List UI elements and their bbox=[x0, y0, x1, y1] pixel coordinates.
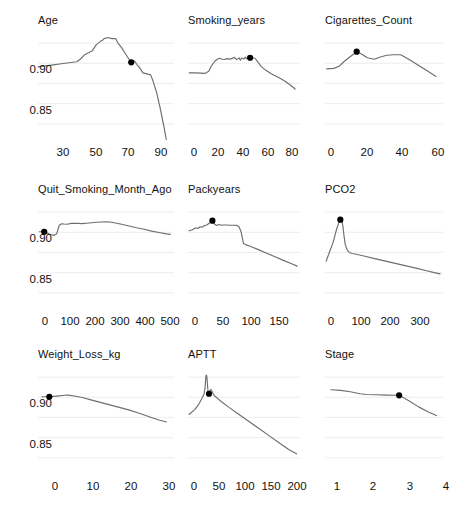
xtick-stage-0: 1 bbox=[334, 480, 340, 492]
xtick-smoking-years-0: 0 bbox=[191, 146, 197, 158]
plot-area-weight-loss-kg bbox=[38, 365, 174, 475]
partial-dependence-curve bbox=[326, 220, 440, 274]
xtick-packyears-3: 150 bbox=[269, 315, 288, 327]
partial-dependence-curve bbox=[189, 221, 297, 266]
selected-point-marker bbox=[354, 49, 360, 55]
xtick-age-2: 70 bbox=[122, 146, 135, 158]
ytick-row2-085: 0.85 bbox=[6, 273, 52, 285]
xtick-stage-3: 4 bbox=[443, 480, 449, 492]
partial-dependence-curve bbox=[189, 375, 297, 454]
panel-title-packyears: Packyears bbox=[188, 183, 240, 195]
plot-area-cigarettes-count bbox=[325, 31, 443, 141]
panel-title-weight-loss-kg: Weight_Loss_kg bbox=[38, 348, 121, 360]
partial-dependence-plot-grid: Age 0.90 0.85 30 50 70 90 Smoking_years … bbox=[0, 0, 474, 518]
plot-svg-packyears bbox=[188, 200, 300, 310]
xtick-aptt-1: 50 bbox=[213, 480, 226, 492]
xtick-quit-smoking-month-ago-4: 400 bbox=[135, 315, 154, 327]
selected-point-marker bbox=[209, 218, 215, 224]
selected-point-marker bbox=[396, 392, 402, 398]
xtick-smoking-years-4: 80 bbox=[286, 146, 299, 158]
xtick-weight-loss-kg-2: 20 bbox=[125, 480, 138, 492]
xtick-quit-smoking-month-ago-2: 200 bbox=[85, 315, 104, 327]
selected-point-marker bbox=[247, 55, 253, 61]
panel-smoking-years: Smoking_years bbox=[188, 14, 300, 164]
panel-aptt: APTT bbox=[188, 348, 300, 498]
xtick-quit-smoking-month-ago-3: 300 bbox=[110, 315, 129, 327]
ytick-row3-090: 0.90 bbox=[6, 397, 52, 409]
xtick-aptt-0: 0 bbox=[191, 480, 197, 492]
panel-quit-smoking-month-ago: Quit_Smoking_Month_Ago bbox=[38, 183, 174, 333]
selected-point-marker bbox=[206, 391, 212, 397]
plot-svg-smoking-years bbox=[188, 31, 300, 141]
xtick-weight-loss-kg-0: 0 bbox=[52, 480, 58, 492]
xtick-aptt-2: 100 bbox=[235, 480, 254, 492]
xtick-packyears-1: 50 bbox=[217, 315, 230, 327]
panel-title-pco2: PCO2 bbox=[325, 183, 355, 195]
panel-title-age: Age bbox=[38, 14, 58, 26]
xtick-pco2-1: 100 bbox=[351, 315, 370, 327]
panel-title-cigarettes-count: Cigarettes_Count bbox=[325, 14, 412, 26]
plot-area-quit-smoking-month-ago bbox=[38, 200, 174, 310]
xtick-aptt-4: 200 bbox=[287, 480, 306, 492]
xtick-pco2-0: 0 bbox=[328, 315, 334, 327]
xtick-cigarettes-count-1: 20 bbox=[361, 146, 374, 158]
partial-dependence-curve bbox=[327, 52, 436, 77]
panel-title-aptt: APTT bbox=[188, 348, 217, 360]
panel-title-stage: Stage bbox=[325, 348, 354, 360]
xtick-pco2-3: 300 bbox=[410, 315, 429, 327]
panel-weight-loss-kg: Weight_Loss_kg bbox=[38, 348, 174, 498]
selected-point-marker bbox=[128, 59, 134, 65]
plot-area-age bbox=[38, 31, 174, 141]
xtick-stage-1: 2 bbox=[370, 480, 376, 492]
panel-packyears: Packyears bbox=[188, 183, 300, 333]
plot-area-smoking-years bbox=[188, 31, 300, 141]
plot-svg-cigarettes-count bbox=[325, 31, 443, 141]
xtick-weight-loss-kg-3: 30 bbox=[163, 480, 176, 492]
xtick-smoking-years-3: 60 bbox=[262, 146, 275, 158]
xtick-cigarettes-count-3: 60 bbox=[432, 146, 445, 158]
xtick-smoking-years-1: 20 bbox=[212, 146, 225, 158]
panel-cigarettes-count: Cigarettes_Count bbox=[325, 14, 443, 164]
plot-svg-quit-smoking-month-ago bbox=[38, 200, 174, 310]
xtick-quit-smoking-month-ago-0: 0 bbox=[42, 315, 48, 327]
plot-svg-pco2 bbox=[325, 200, 443, 310]
selected-point-marker bbox=[337, 217, 343, 223]
partial-dependence-curve bbox=[189, 57, 295, 89]
plot-svg-aptt bbox=[188, 365, 300, 475]
xtick-cigarettes-count-2: 40 bbox=[396, 146, 409, 158]
xtick-age-0: 30 bbox=[57, 146, 70, 158]
panel-age: Age bbox=[38, 14, 174, 164]
plot-svg-stage bbox=[325, 365, 443, 475]
xtick-packyears-2: 100 bbox=[241, 315, 260, 327]
plot-svg-weight-loss-kg bbox=[38, 365, 174, 475]
xtick-stage-2: 3 bbox=[407, 480, 413, 492]
panel-pco2: PCO2 bbox=[325, 183, 443, 333]
plot-area-aptt bbox=[188, 365, 300, 475]
xtick-aptt-3: 150 bbox=[261, 480, 280, 492]
ytick-row1-090: 0.90 bbox=[6, 63, 52, 75]
ytick-row2-090: 0.90 bbox=[6, 232, 52, 244]
xtick-quit-smoking-month-ago-1: 100 bbox=[60, 315, 79, 327]
xtick-pco2-2: 200 bbox=[380, 315, 399, 327]
partial-dependence-curve bbox=[39, 222, 170, 236]
ytick-row1-085: 0.85 bbox=[6, 104, 52, 116]
partial-dependence-curve bbox=[42, 395, 167, 422]
ytick-row3-085: 0.85 bbox=[6, 438, 52, 450]
xtick-age-1: 50 bbox=[90, 146, 103, 158]
xtick-smoking-years-2: 40 bbox=[237, 146, 250, 158]
panel-title-smoking-years: Smoking_years bbox=[188, 14, 265, 26]
panel-stage: Stage bbox=[325, 348, 443, 498]
xtick-weight-loss-kg-1: 10 bbox=[87, 480, 100, 492]
plot-area-pco2 bbox=[325, 200, 443, 310]
partial-dependence-curve bbox=[331, 390, 437, 416]
xtick-age-3: 90 bbox=[155, 146, 168, 158]
panel-title-quit-smoking-month-ago: Quit_Smoking_Month_Ago bbox=[38, 183, 172, 195]
xtick-packyears-0: 0 bbox=[192, 315, 198, 327]
plot-area-packyears bbox=[188, 200, 300, 310]
plot-svg-age bbox=[38, 31, 174, 141]
xtick-cigarettes-count-0: 0 bbox=[328, 146, 334, 158]
plot-area-stage bbox=[325, 365, 443, 475]
xtick-quit-smoking-month-ago-5: 500 bbox=[160, 315, 179, 327]
